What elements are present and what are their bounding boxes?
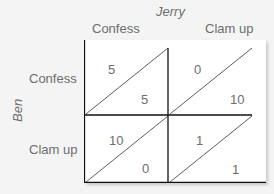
column-player-label: Jerry: [156, 4, 185, 19]
payoff-ben-clamup-confess: 10: [109, 133, 123, 148]
payoff-jerry-clamup-clamup: 1: [232, 162, 239, 177]
payoff-jerry-confess-clamup: 10: [230, 92, 244, 107]
payoff-ben-confess-clamup: 0: [194, 62, 201, 77]
row-header-confess: Confess: [29, 71, 77, 86]
payoff-ben-clamup-clamup: 1: [196, 133, 203, 148]
payoff-ben-confess-confess: 5: [108, 62, 115, 77]
payoff-matrix: 5 5 0 10 10 0 1 1: [84, 40, 266, 183]
payoff-jerry-clamup-confess: 0: [142, 161, 149, 176]
column-header-confess: Confess: [92, 21, 140, 36]
row-player-label: Ben: [10, 99, 25, 122]
row-header-clam-up: Clam up: [29, 142, 77, 157]
column-header-clam-up: Clam up: [205, 21, 253, 36]
payoff-jerry-confess-confess: 5: [141, 92, 148, 107]
